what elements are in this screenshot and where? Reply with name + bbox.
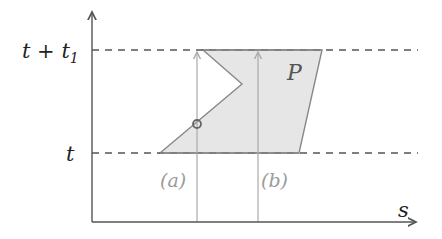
path-a-label: (a) <box>160 169 186 191</box>
region-label-p: P <box>286 60 303 85</box>
label-top-level: t + t1 <box>22 39 79 66</box>
x-axis-label-s: s <box>398 198 409 222</box>
label-bottom-level: t <box>66 142 75 166</box>
diagram-canvas: t + t1 t P (a) (b) s <box>0 0 442 239</box>
path-b-label: (b) <box>261 169 288 191</box>
